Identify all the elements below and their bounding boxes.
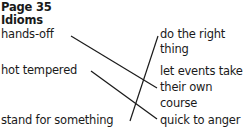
match-line-hot-tempered (91, 71, 157, 119)
matching-lines (0, 0, 250, 133)
match-line-hands-off (71, 36, 157, 88)
match-line-stand-for-something (130, 36, 158, 121)
